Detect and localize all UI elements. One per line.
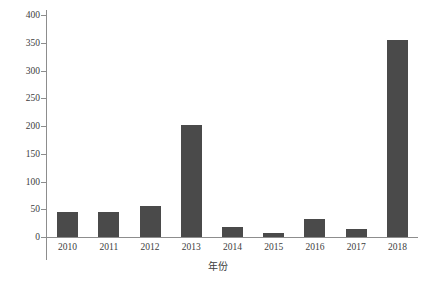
y-axis-tick-mark [41, 43, 46, 44]
y-axis-tick-label: 100 [6, 177, 40, 187]
y-axis-tick-mark [41, 154, 46, 155]
bar-chart: 穿山甲鳞片 (kg) 050100150200250300350400 2010… [0, 0, 436, 287]
bar [98, 212, 119, 237]
y-axis-tick-mark [41, 209, 46, 210]
y-axis-tick-mark [41, 126, 46, 127]
bar [304, 219, 325, 237]
x-axis-tick-label: 2013 [171, 241, 211, 253]
y-axis-tick-mark [41, 182, 46, 183]
y-axis-tick-label: 200 [6, 121, 40, 131]
y-axis-tick-label: 300 [6, 66, 40, 76]
y-axis-tick-mark [41, 237, 46, 238]
y-axis-tick-label: 250 [6, 93, 40, 103]
y-axis-tick-labels: 050100150200250300350400 [0, 0, 40, 287]
bar [181, 125, 202, 237]
y-axis-tick-mark [41, 98, 46, 99]
bar [346, 229, 367, 237]
x-axis-tick-label: 2014 [213, 241, 253, 253]
bar [57, 212, 78, 237]
y-axis-tick-label: 0 [6, 232, 40, 242]
y-axis-tick-label: 350 [6, 38, 40, 48]
y-axis-tick-label: 50 [6, 204, 40, 214]
y-axis-tick-label: 400 [6, 10, 40, 20]
x-axis-title: 年份 [0, 258, 436, 273]
bar [263, 233, 284, 237]
x-axis-tick-label: 2018 [377, 241, 417, 253]
x-axis-tick-label: 2016 [295, 241, 335, 253]
bar [387, 40, 408, 237]
plot-area [47, 10, 418, 237]
x-axis-tick-label: 2015 [254, 241, 294, 253]
x-axis-tick-labels: 201020112012201320142015201620172018 [47, 241, 418, 255]
x-axis-line [46, 237, 418, 238]
x-axis-tick-label: 2017 [336, 241, 376, 253]
x-axis-tick-label: 2012 [130, 241, 170, 253]
bar [140, 206, 161, 237]
y-axis-tick-mark [41, 15, 46, 16]
x-axis-tick-label: 2010 [48, 241, 88, 253]
bar [222, 227, 243, 237]
x-axis-tick-label: 2011 [89, 241, 129, 253]
y-axis-tick-label: 150 [6, 149, 40, 159]
y-axis-tick-mark [41, 71, 46, 72]
